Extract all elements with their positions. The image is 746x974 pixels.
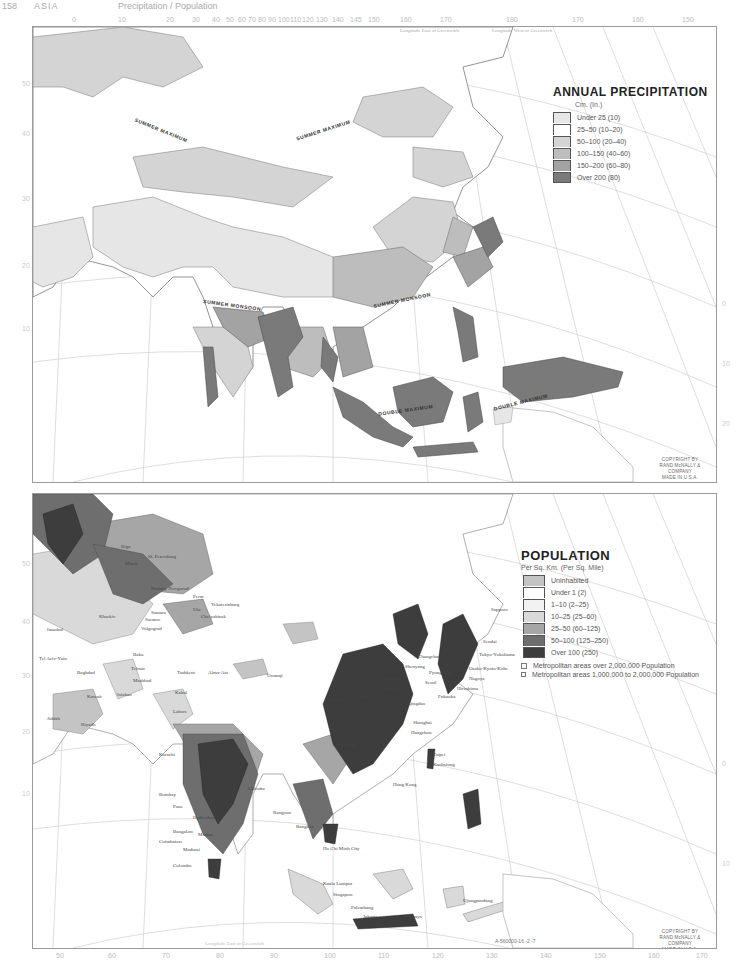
tick-label: 20 <box>166 16 174 23</box>
latitude-tick: 10 <box>22 325 30 332</box>
page-number: 158 <box>2 1 17 11</box>
tick-label: 120 <box>302 16 314 23</box>
city-label: Beijing <box>383 676 398 681</box>
tick-label: 40 <box>212 16 220 23</box>
copyright-line: MADE IN U.S.A. <box>648 947 712 949</box>
legend-label: 1–10 (2–25) <box>551 601 589 608</box>
city-label: Lahore <box>173 709 187 714</box>
tick-label: 80 <box>216 952 224 959</box>
legend-item: Under 25 (10) <box>553 111 708 123</box>
city-label: Urumqi <box>267 673 283 678</box>
legend-label: 10–25 (25–60) <box>551 613 597 620</box>
longitude-east-caption: Longitude East of Greenwich <box>400 28 459 33</box>
city-label: Surabaya <box>403 914 422 919</box>
legend-item: 25–50 (60–125) <box>523 622 699 634</box>
city-label: Singapore <box>333 892 353 897</box>
copyright-line: MADE IN U.S.A. <box>648 475 712 481</box>
city-label: Tel Aviv-Yafo <box>39 656 67 661</box>
city-label: Isfahan <box>117 692 132 697</box>
legend-label: Over 200 (80) <box>577 174 620 181</box>
australia-outline <box>503 407 633 482</box>
latitude-tick: 20 <box>22 728 30 735</box>
legend-item: 25–50 (10–20) <box>553 123 708 135</box>
tick-label: 90 <box>268 16 276 23</box>
city-label: Kharkiv <box>99 614 115 619</box>
tick-label: 10 <box>118 16 126 23</box>
legend-swatch <box>553 124 571 135</box>
legend-label: 25–50 (60–125) <box>551 625 600 632</box>
legend-label: Metropolitan areas over 2,000,000 Popula… <box>533 662 675 669</box>
australia-outline <box>503 874 633 948</box>
city-label: Alma-Ata <box>208 670 228 675</box>
city-label: Istanbul <box>47 627 63 632</box>
precipitation-legend: ANNUAL PRECIPITATION Cm. (In.) Under 25 … <box>553 85 708 183</box>
tick-label: 0 <box>72 16 76 23</box>
legend-items: Under 25 (10) 25–50 (10–20) 50–100 (20–4… <box>553 111 708 183</box>
legend-label: Over 100 (250) <box>551 649 598 656</box>
precip-top-ticks: 0 10 20 30 40 50 60 70 80 90 100 110 120… <box>32 16 715 26</box>
tick-label: 160 <box>648 952 660 959</box>
pop-bottom-ticks: 50 60 70 80 90 100 110 120 130 140 150 1… <box>32 952 715 962</box>
tick-label: 150 <box>594 952 606 959</box>
city-label: Tehran <box>131 666 145 671</box>
city-label: Baghdad <box>77 670 95 675</box>
legend-swatch <box>523 611 545 622</box>
city-label: Pune <box>173 804 183 809</box>
city-label: Kabul <box>175 690 187 695</box>
legend-title: POPULATION <box>521 548 699 563</box>
tick-label: 180 <box>506 16 518 23</box>
city-label: Pyongyang <box>429 670 452 675</box>
city-label: Yekaterinburg <box>211 602 239 607</box>
page-header: 158 ASIA Precipitation / Population <box>0 0 746 14</box>
tick-label: 90 <box>270 952 278 959</box>
legend-label: Uninhabited <box>551 577 588 584</box>
legend-label: 25–50 (10–20) <box>577 126 623 133</box>
latitude-tick: 40 <box>22 130 30 137</box>
city-label: Osaka-Kyoto-Kobe <box>469 666 508 671</box>
legend-swatch <box>553 148 571 159</box>
city-label: Seoul <box>425 680 436 685</box>
reference-code: A-560000-16 -2 -7 <box>495 938 536 944</box>
city-label: Madras <box>198 832 213 837</box>
legend-items: Uninhabited Under 1 (2) 1–10 (2–25) 10–2… <box>523 574 699 658</box>
tick-label: 70 <box>162 952 170 959</box>
tick-label: 50 <box>56 952 64 959</box>
section-title: ASIA <box>34 1 59 11</box>
city-label: Ufa <box>193 607 201 612</box>
city-label: Hiroshima <box>457 686 478 691</box>
legend-swatch <box>553 136 571 147</box>
city-label: Jakarta <box>363 914 377 919</box>
legend-swatch <box>523 587 545 598</box>
city-label: Hong Kong <box>393 782 416 787</box>
city-label: Sendai <box>483 639 497 644</box>
legend-item: 150–200 (60–80) <box>553 159 708 171</box>
page-subtitle: Precipitation / Population <box>118 1 218 11</box>
tick-label: 160 <box>632 16 644 23</box>
legend-label: 50–100 (125–250) <box>551 637 608 644</box>
city-label: Kuala Lumpur <box>323 881 352 886</box>
legend-item: Over 100 (250) <box>523 646 699 658</box>
city-label: Mashhad <box>133 678 151 683</box>
metro-small-icon <box>521 672 526 677</box>
tick-label: 150 <box>682 16 694 23</box>
legend-label: Metropolitan areas 1,000,000 to 2,000,00… <box>532 671 699 678</box>
city-label: Hangzhou <box>411 730 432 735</box>
city-label: Minsk <box>125 561 138 566</box>
population-map: Riga Minsk St. Petersburg Nizhniy Novgor… <box>32 493 717 949</box>
city-label: Calcutta <box>248 786 265 791</box>
city-label: Riyadh <box>81 722 95 727</box>
legend-swatch <box>523 623 545 634</box>
legend-item: 10–25 (25–60) <box>523 610 699 622</box>
legend-swatch <box>553 172 571 183</box>
legend-swatch <box>553 160 571 171</box>
legend-item: Uninhabited <box>523 574 699 586</box>
copyright-line: RAND McNALLY & COMPANY <box>648 935 712 947</box>
latitude-tick: 40 <box>22 618 30 625</box>
city-label: Coimbatore <box>159 839 183 844</box>
city-label: Fukuoka <box>438 694 456 699</box>
copyright-notice: COPYRIGHT BY RAND McNALLY & COMPANY MADE… <box>648 929 712 949</box>
tick-label: 170 <box>696 952 708 959</box>
legend-label: 100–150 (40–60) <box>577 150 630 157</box>
city-label: Hyderabad <box>193 815 215 820</box>
tick-label: 170 <box>572 16 584 23</box>
